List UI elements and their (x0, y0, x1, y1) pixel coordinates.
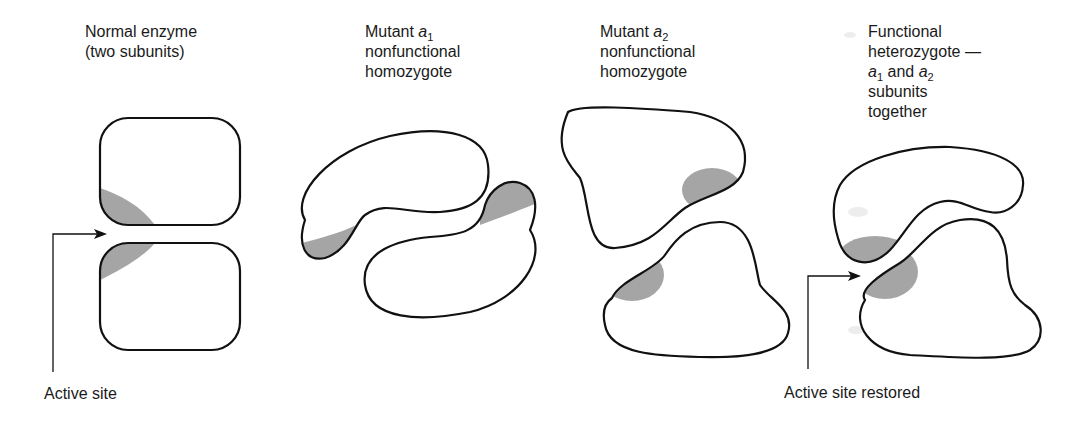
mutant-a1-enzyme (295, 131, 545, 317)
distorted-site-lower (480, 170, 545, 225)
normal-subunit-bottom (100, 243, 240, 350)
heterozygote-enzyme (808, 32, 1041, 369)
smudges (844, 32, 868, 334)
mutant-a2-subunit-lower (600, 222, 789, 357)
active-site-half-bottom (100, 243, 155, 280)
enzyme-subunit-diagram (0, 0, 1086, 430)
normal-subunit-top (100, 118, 240, 225)
distorted-site-upper (295, 222, 362, 270)
active-site-restored-pointer (808, 271, 861, 369)
mutant-a1-subunit-lower (365, 170, 545, 317)
mutant-a2-enzyme (562, 107, 790, 357)
active-site-half-top (100, 188, 155, 225)
normal-enzyme (53, 118, 240, 372)
mutant-a1-subunit-upper (295, 131, 488, 270)
mutant-a2-subunit-upper (562, 107, 745, 248)
distorted-site-lower (600, 249, 664, 301)
